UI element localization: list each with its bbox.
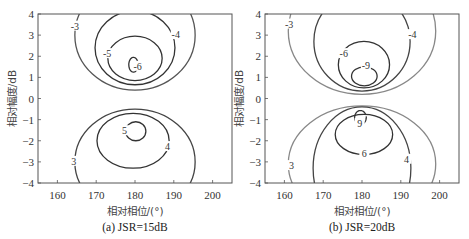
- y-axis-label: 相对幅度/dB: [6, 70, 18, 127]
- contour-label: -3: [71, 21, 79, 32]
- y-tick-label: 4: [29, 8, 35, 20]
- contour-label: 5: [122, 125, 127, 136]
- y-tick-label: 2: [256, 50, 262, 62]
- x-tick-label: 180: [354, 189, 371, 201]
- y-tick-label: 1: [256, 71, 262, 83]
- x-tick-label: 160: [276, 189, 293, 201]
- contour-label: -4: [408, 29, 416, 40]
- contour-label: 6: [362, 148, 367, 159]
- y-axis-label: 相对幅度/dB: [233, 70, 245, 127]
- chart-panel-b: -3-4-6-9346943210−1−2−3−4160170180190200…: [233, 0, 459, 234]
- y-tick-label: −2: [249, 135, 261, 147]
- y-tick-label: −1: [22, 114, 34, 126]
- y-tick-label: −1: [249, 114, 261, 126]
- y-tick-label: −3: [22, 156, 34, 168]
- contour-label: 4: [165, 141, 170, 152]
- x-tick-label: 180: [127, 189, 144, 201]
- contour-label: -6: [134, 61, 142, 72]
- x-tick-label: 170: [315, 189, 332, 201]
- figure: -3-4-5-634543210−1−2−3−4160170180190200相…: [0, 0, 469, 239]
- contour-label: 4: [404, 154, 409, 165]
- y-tick-label: 1: [29, 71, 35, 83]
- panel-caption: (b) JSR=20dB: [329, 221, 396, 234]
- panel-caption: (a) JSR=15dB: [102, 221, 168, 234]
- y-tick-label: 0: [256, 93, 262, 105]
- y-tick-label: −4: [249, 177, 261, 189]
- plot-frame: [38, 14, 232, 183]
- contour-label: -3: [285, 19, 293, 30]
- y-tick-label: 3: [256, 29, 262, 41]
- y-tick-label: 0: [29, 93, 35, 105]
- x-tick-label: 200: [204, 189, 221, 201]
- contour-label: -5: [103, 48, 111, 59]
- contour-label: 9: [357, 118, 362, 129]
- y-tick-label: −3: [249, 156, 261, 168]
- contour-label: -4: [172, 29, 180, 40]
- contour-label: -9: [362, 60, 370, 71]
- contour-label: -6: [340, 48, 348, 59]
- x-tick-label: 190: [393, 189, 410, 201]
- contour-label: 3: [289, 160, 294, 171]
- chart-panel-a: -3-4-5-634543210−1−2−3−4160170180190200相…: [6, 0, 232, 234]
- y-tick-label: 2: [29, 50, 35, 62]
- x-tick-label: 200: [431, 189, 448, 201]
- x-axis-label: 相对相位/(°): [107, 205, 164, 217]
- x-tick-label: 190: [166, 189, 183, 201]
- x-tick-label: 170: [88, 189, 105, 201]
- y-tick-label: −2: [22, 135, 34, 147]
- y-tick-label: 3: [29, 29, 35, 41]
- y-tick-label: −4: [22, 177, 34, 189]
- x-axis-label: 相对相位/(°): [334, 205, 391, 217]
- contour-label: 3: [71, 156, 76, 167]
- y-tick-label: 4: [256, 8, 262, 20]
- x-tick-label: 160: [49, 189, 66, 201]
- contour-group: -3-4-5-6345: [69, 0, 195, 215]
